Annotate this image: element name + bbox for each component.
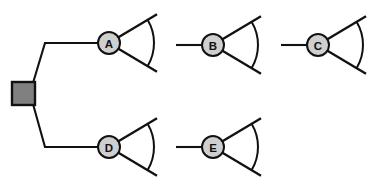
node-circle-a[interactable] [98,32,120,54]
nodes-layer: ABCDE [98,32,329,158]
node-e[interactable]: E [202,136,224,158]
edge-root-to-a [33,43,98,83]
diagram-canvas: ABCDE [0,0,386,196]
fan-arc-a [148,20,154,66]
edge-root-to-d [33,104,98,147]
fan-group-a [118,14,157,72]
node-circle-c[interactable] [307,34,329,56]
fan-group-b [222,16,261,74]
fan-group-d [118,118,157,176]
root-square-node[interactable] [12,82,35,105]
node-c[interactable]: C [307,34,329,56]
fan-arc-c [357,22,363,68]
node-circle-e[interactable] [202,136,224,158]
node-circle-b[interactable] [202,34,224,56]
fan-arc-b [252,22,258,68]
fan-group-e [222,118,261,176]
node-a[interactable]: A [98,32,120,54]
node-b[interactable]: B [202,34,224,56]
fan-arc-e [252,124,258,170]
node-d[interactable]: D [98,136,120,158]
fan-arc-d [148,124,154,170]
node-fan-diagram: ABCDE [0,0,386,196]
edges-layer [33,43,307,147]
node-circle-d[interactable] [98,136,120,158]
fan-group-c [327,16,366,74]
fans-layer [118,14,366,176]
